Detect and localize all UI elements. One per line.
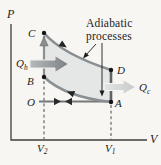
point-label-b: B bbox=[27, 75, 34, 87]
q-cold-base: Q bbox=[139, 81, 147, 93]
v1-subscript: 1 bbox=[112, 147, 116, 156]
point-label-d: D bbox=[116, 64, 125, 76]
point-dot-d bbox=[109, 68, 113, 72]
point-dot-b bbox=[42, 75, 46, 79]
point-label-c: C bbox=[28, 27, 36, 39]
v2-subscript: 2 bbox=[44, 147, 48, 156]
annotation-text-line1: Adiabatic bbox=[86, 17, 133, 29]
pressure-axis-label: P bbox=[6, 7, 15, 21]
annotation-text-line2: processes bbox=[86, 30, 132, 43]
pv-diagram-canvas: P V C B O D A V2 V1 Qh Qc Adiabatic proc… bbox=[0, 0, 161, 165]
point-dot-c bbox=[42, 31, 46, 35]
q-hot-base: Q bbox=[16, 57, 24, 69]
point-label-o: O bbox=[27, 96, 35, 108]
q-hot-subscript: h bbox=[24, 63, 28, 72]
point-label-a: A bbox=[114, 97, 122, 109]
pv-diagram-figure: P V C B O D A V2 V1 Qh Qc Adiabatic proc… bbox=[0, 0, 161, 165]
point-dot-a bbox=[109, 100, 113, 104]
